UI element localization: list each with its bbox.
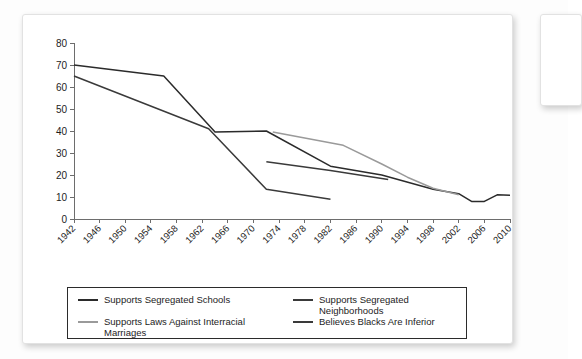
legend-item: Supports Laws Against Interracial Marria… [68, 316, 283, 338]
x-tick-label: 2010 [491, 223, 512, 246]
x-tick-label: 2006 [465, 223, 488, 246]
x-tick-label: 1966 [209, 223, 232, 246]
y-tick-label: 60 [56, 82, 68, 93]
legend-label: Supports Segregated Schools [104, 294, 230, 305]
x-tick-label: 1954 [132, 223, 155, 246]
x-tick-label: 2002 [439, 223, 462, 246]
x-tick-label: 1942 [55, 223, 78, 246]
x-tick-label: 1982 [311, 223, 334, 246]
y-tick-label: 40 [56, 126, 68, 137]
x-tick-label: 1958 [157, 223, 180, 246]
x-tick-label: 1974 [260, 223, 283, 246]
series-lines [74, 65, 510, 201]
y-axis: 01020304050607080 [56, 38, 74, 225]
y-tick-label: 70 [56, 60, 68, 71]
series-line-0 [74, 65, 510, 201]
chart-canvas: 01020304050607080 1942194619501954195819… [23, 15, 512, 285]
legend-label: Supports Laws Against Interracial Marria… [104, 316, 254, 338]
legend-item: Supports Segregated Neighborhoods [283, 294, 468, 316]
chart-card: 01020304050607080 1942194619501954195819… [22, 14, 513, 344]
legend-item: Believes Blacks Are Inferior [283, 316, 468, 338]
legend-item: Supports Segregated Schools [68, 294, 283, 316]
y-tick-label: 0 [61, 214, 67, 225]
legend-label: Supports Segregated Neighborhoods [319, 294, 468, 316]
adjacent-card [540, 14, 582, 106]
x-tick-label: 1950 [106, 223, 129, 246]
x-tick-label: 1986 [337, 223, 360, 246]
y-tick-label: 10 [56, 192, 68, 203]
x-tick-label: 1946 [80, 223, 103, 246]
x-axis: 1942194619501954195819621966197019741978… [55, 219, 512, 245]
legend-swatch-line-icon [78, 321, 98, 323]
legend-swatch-line-icon [78, 299, 98, 301]
legend-swatch-line-icon [293, 321, 313, 323]
chart-legend: Supports Segregated SchoolsSupports Segr… [67, 287, 467, 339]
x-tick-label: 1962 [183, 223, 206, 246]
y-tick-label: 80 [56, 38, 68, 49]
series-line-2 [74, 76, 330, 199]
y-tick-label: 50 [56, 104, 68, 115]
series-line-1 [273, 132, 459, 195]
legend-swatch-line-icon [293, 299, 313, 301]
x-tick-label: 1998 [414, 223, 437, 246]
x-tick-label: 1978 [286, 223, 309, 246]
legend-label: Believes Blacks Are Inferior [319, 316, 435, 327]
y-tick-label: 30 [56, 148, 68, 159]
x-tick-label: 1990 [362, 223, 385, 246]
x-tick-label: 1970 [234, 223, 257, 246]
y-tick-label: 20 [56, 170, 68, 181]
x-tick-label: 1994 [388, 223, 411, 246]
